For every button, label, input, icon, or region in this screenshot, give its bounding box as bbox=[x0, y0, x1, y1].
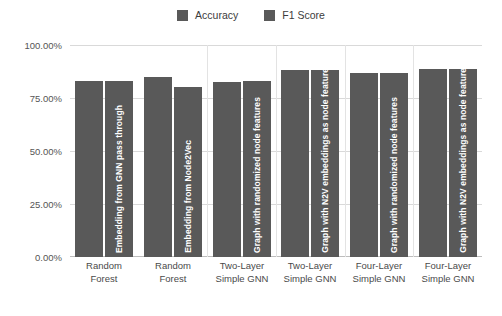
y-axis-tick-label: 75.00% bbox=[30, 93, 62, 104]
bar-f1-score[interactable]: Graph with randomized node features bbox=[380, 73, 408, 257]
y-axis-tick-label: 0.00% bbox=[35, 252, 62, 263]
gridline-vertical bbox=[413, 45, 414, 257]
bar-fill bbox=[243, 81, 271, 257]
plot-area: Embedding from GNN pass throughEmbedding… bbox=[70, 45, 482, 257]
x-axis-tick-label: Two-LayerSimple GNN bbox=[206, 260, 278, 285]
x-axis-tick-label: Two-LayerSimple GNN bbox=[274, 260, 346, 285]
bar-group: Graph with randomized node features bbox=[350, 45, 408, 257]
x-axis-tick-label: RandomForest bbox=[137, 260, 209, 285]
x-axis-tick-line: Four-Layer bbox=[343, 260, 415, 273]
bar-accuracy[interactable] bbox=[350, 73, 378, 257]
bar-accuracy[interactable] bbox=[281, 70, 309, 257]
x-axis-tick-line: Random bbox=[68, 260, 140, 273]
bar-fill bbox=[419, 69, 447, 257]
bar-group: Graph with N2V embeddings as node featur… bbox=[281, 45, 339, 257]
bar-chart: Accuracy F1 Score 0.00%25.00%50.00%75.00… bbox=[0, 0, 502, 316]
bar-accuracy[interactable] bbox=[144, 77, 172, 257]
y-axis-tick-label: 100.00% bbox=[24, 40, 62, 51]
bar-f1-score[interactable]: Graph with N2V embeddings as node featur… bbox=[449, 69, 477, 257]
y-axis: 0.00%25.00%50.00%75.00%100.00% bbox=[0, 45, 62, 257]
legend-swatch-f1-score bbox=[264, 10, 275, 21]
bar-group: Embedding from Node2Vec bbox=[144, 45, 202, 257]
bar-accuracy[interactable] bbox=[75, 81, 103, 257]
bar-accuracy[interactable] bbox=[213, 82, 241, 257]
x-axis-tick-line: Forest bbox=[68, 273, 140, 286]
gridline-vertical bbox=[207, 45, 208, 257]
legend-item-f1-score[interactable]: F1 Score bbox=[264, 10, 325, 21]
x-axis-tick-line: Simple GNN bbox=[206, 273, 278, 286]
y-axis-tick-label: 25.00% bbox=[30, 199, 62, 210]
bar-fill bbox=[380, 73, 408, 257]
bar-fill bbox=[350, 73, 378, 257]
x-axis-tick-label: Four-LayerSimple GNN bbox=[412, 260, 484, 285]
x-axis-tick-line: Simple GNN bbox=[343, 273, 415, 286]
bar-group: Graph with N2V embeddings as node featur… bbox=[419, 45, 477, 257]
x-axis-tick-line: Four-Layer bbox=[412, 260, 484, 273]
x-axis-tick-label: Four-LayerSimple GNN bbox=[343, 260, 415, 285]
legend-swatch-accuracy bbox=[177, 10, 188, 21]
bar-accuracy[interactable] bbox=[419, 69, 447, 257]
legend-item-accuracy[interactable]: Accuracy bbox=[177, 10, 238, 21]
bar-f1-score[interactable]: Embedding from Node2Vec bbox=[174, 87, 202, 257]
bar-fill bbox=[311, 70, 339, 257]
bar-group: Embedding from GNN pass through bbox=[75, 45, 133, 257]
bar-group: Graph with randomized node features bbox=[213, 45, 271, 257]
x-axis-tick-line: Two-Layer bbox=[274, 260, 346, 273]
bar-f1-score[interactable]: Embedding from GNN pass through bbox=[105, 81, 133, 257]
x-axis-tick-line: Simple GNN bbox=[274, 273, 346, 286]
x-axis: RandomForestRandomForestTwo-LayerSimple … bbox=[70, 260, 482, 300]
x-axis-tick-label: RandomForest bbox=[68, 260, 140, 285]
x-axis-tick-line: Simple GNN bbox=[412, 273, 484, 286]
legend-label-accuracy: Accuracy bbox=[195, 10, 238, 21]
bar-f1-score[interactable]: Graph with N2V embeddings as node featur… bbox=[311, 70, 339, 257]
bar-fill bbox=[213, 82, 241, 257]
bar-fill bbox=[75, 81, 103, 257]
bar-fill bbox=[449, 69, 477, 257]
bar-fill bbox=[281, 70, 309, 257]
gridline-vertical bbox=[345, 45, 346, 257]
bar-fill bbox=[144, 77, 172, 257]
legend-label-f1-score: F1 Score bbox=[282, 10, 325, 21]
gridline-vertical bbox=[276, 45, 277, 257]
bar-f1-score[interactable]: Graph with randomized node features bbox=[243, 81, 271, 257]
bar-fill bbox=[105, 81, 133, 257]
y-axis-tick-label: 50.00% bbox=[30, 146, 62, 157]
x-axis-tick-line: Random bbox=[137, 260, 209, 273]
x-axis-tick-line: Two-Layer bbox=[206, 260, 278, 273]
chart-legend: Accuracy F1 Score bbox=[0, 10, 502, 21]
bar-fill bbox=[174, 87, 202, 257]
x-axis-tick-line: Forest bbox=[137, 273, 209, 286]
